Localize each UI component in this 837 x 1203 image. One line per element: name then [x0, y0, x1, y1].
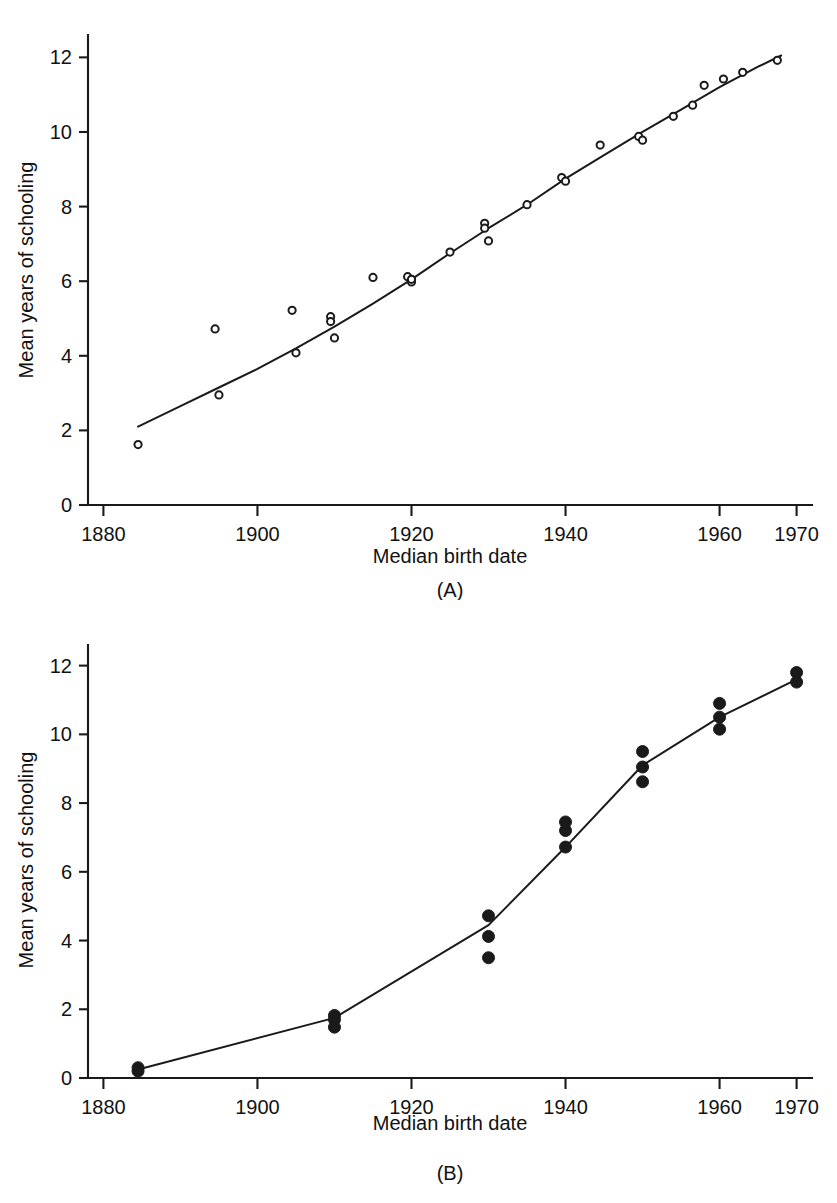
x-axis-tick-label: 1880	[81, 523, 126, 545]
x-axis-tick-label: 1970	[774, 1096, 819, 1118]
data-point-marker	[714, 711, 726, 723]
x-axis-title: Median birth date	[373, 1112, 528, 1134]
y-axis-tick-label: 2	[61, 419, 72, 441]
data-point-marker	[670, 113, 677, 120]
data-point-marker	[701, 82, 708, 89]
data-point-marker	[597, 141, 604, 148]
data-point-marker	[485, 237, 492, 244]
data-point-marker	[739, 69, 746, 76]
panel-b-chart: 024681012188019001920194019601970Median …	[0, 600, 837, 1203]
data-point-marker	[637, 776, 649, 788]
data-point-marker	[637, 761, 649, 773]
y-axis-tick-label: 4	[61, 930, 72, 952]
panel-caption: (A)	[437, 579, 464, 600]
data-point-marker	[211, 325, 218, 332]
x-axis-tick-label: 1960	[697, 1096, 742, 1118]
y-axis-title: Mean years of schooling	[15, 752, 37, 969]
y-axis-tick-label: 2	[61, 998, 72, 1020]
data-point-marker	[446, 249, 453, 256]
data-point-marker	[639, 137, 646, 144]
y-axis-tick-label: 6	[61, 270, 72, 292]
y-axis-tick-label: 8	[61, 792, 72, 814]
trend-line	[138, 56, 781, 427]
x-axis-tick-label: 1900	[235, 1096, 280, 1118]
y-axis-tick-label: 0	[61, 494, 72, 516]
axis-spine	[88, 645, 812, 1078]
x-axis-tick-label: 1880	[81, 1096, 126, 1118]
data-point-marker	[483, 952, 495, 964]
trend-line	[138, 679, 797, 1069]
data-point-marker	[369, 274, 376, 281]
data-point-marker	[637, 746, 649, 758]
y-axis-tick-label: 12	[50, 655, 72, 677]
figure-two-panel-scatter: 024681012188019001920194019601970Median …	[0, 0, 837, 1203]
y-axis-tick-label: 12	[50, 46, 72, 68]
data-point-marker	[215, 391, 222, 398]
data-point-marker	[720, 75, 727, 82]
data-point-marker	[328, 1021, 340, 1033]
data-point-marker	[134, 441, 141, 448]
data-point-marker	[523, 201, 530, 208]
data-point-marker	[292, 349, 299, 356]
data-point-marker	[560, 841, 572, 853]
panel-a-svg: 024681012188019001920194019601970Median …	[0, 0, 837, 600]
data-point-marker	[331, 334, 338, 341]
data-point-marker	[791, 676, 803, 688]
x-axis-title: Median birth date	[373, 545, 528, 567]
panel-b-svg: 024681012188019001920194019601970Median …	[0, 600, 837, 1203]
data-point-marker	[289, 307, 296, 314]
panel-caption: (B)	[437, 1162, 464, 1184]
x-axis-tick-label: 1920	[389, 523, 434, 545]
data-point-marker	[689, 102, 696, 109]
data-point-marker	[483, 910, 495, 922]
y-axis-tick-label: 6	[61, 861, 72, 883]
y-axis-tick-label: 10	[50, 121, 72, 143]
panel-a-chart: 024681012188019001920194019601970Median …	[0, 0, 837, 600]
data-point-marker	[132, 1065, 144, 1077]
data-point-marker	[714, 697, 726, 709]
y-axis-tick-label: 10	[50, 723, 72, 745]
axis-spine	[88, 35, 812, 505]
data-point-marker	[560, 825, 572, 837]
data-point-marker	[327, 318, 334, 325]
y-axis-title: Mean years of schooling	[15, 162, 37, 379]
x-axis-tick-label: 1970	[774, 523, 819, 545]
y-axis-tick-label: 0	[61, 1067, 72, 1089]
data-point-marker	[714, 723, 726, 735]
x-axis-tick-label: 1940	[543, 523, 588, 545]
x-axis-tick-label: 1940	[543, 1096, 588, 1118]
data-point-marker	[483, 930, 495, 942]
data-point-marker	[408, 276, 415, 283]
y-axis-tick-label: 8	[61, 196, 72, 218]
data-point-marker	[774, 57, 781, 64]
data-point-marker	[562, 178, 569, 185]
y-axis-tick-label: 4	[61, 345, 72, 367]
data-point-marker	[481, 225, 488, 232]
x-axis-tick-label: 1900	[235, 523, 280, 545]
x-axis-tick-label: 1960	[697, 523, 742, 545]
